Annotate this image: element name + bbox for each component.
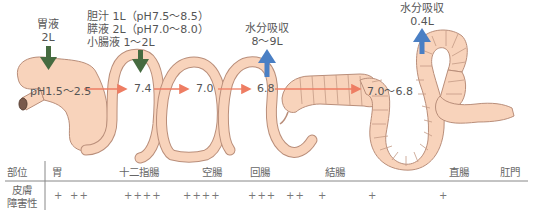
site-duodenum: 十二指腸 <box>119 164 159 179</box>
site-stomach: 胃 <box>52 164 62 179</box>
skin-damage-colon-2: + <box>368 190 377 201</box>
skin-damage-ileum-2: ++ <box>286 190 305 201</box>
skin-damage-duodenum: ++++ <box>124 190 162 201</box>
ph-jejunum: 7.0 <box>196 82 214 95</box>
ph-stomach: pH1.5〜2.5 <box>30 82 91 98</box>
duodenal-secretions-label: 胆汁 1L（pH7.5〜8.5） 膵液 2L（pH7.0〜8.0） 小腸液 1〜… <box>87 10 209 49</box>
row-header-site: 部位 <box>7 164 27 179</box>
ph-colon: 7.0〜6.8 <box>367 82 413 98</box>
site-colon: 結腸 <box>325 164 345 179</box>
site-anus: 肛門 <box>500 164 520 179</box>
gastric-juice-label: 胃液 2L <box>30 18 66 44</box>
skin-damage-jejunum: ++++ <box>183 190 221 201</box>
small-intestine-absorption-label: 水分吸収 8〜9L <box>244 22 290 48</box>
site-ileum: 回腸 <box>250 164 270 179</box>
ph-duodenum: 7.4 <box>134 82 152 95</box>
colon-shape <box>282 30 514 170</box>
skin-damage-ileum-1: +++ <box>248 190 276 201</box>
site-jejunum: 空腸 <box>202 164 222 179</box>
skin-damage-rectum: + <box>439 190 448 201</box>
site-rectum: 直腸 <box>449 164 469 179</box>
skin-damage-stomach-1: + <box>54 190 63 201</box>
skin-damage-stomach-2: ++ <box>70 190 89 201</box>
skin-damage-colon-1: + <box>318 190 327 201</box>
colon-absorption-label: 水分吸収 0.4L <box>399 2 445 28</box>
ph-ileum: 6.8 <box>257 82 275 95</box>
row-header-skin-damage: 皮膚 障害性 <box>7 184 37 210</box>
